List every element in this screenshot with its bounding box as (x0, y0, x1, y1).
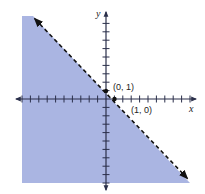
y-axis-label: y (95, 8, 101, 19)
point-0-1 (104, 89, 108, 93)
x-axis-label: x (188, 103, 194, 114)
point-1-0-label: (1, 0) (131, 105, 152, 115)
point-1-0 (112, 97, 116, 101)
inequality-graph: (0, 1) (1, 0) x y (0, 0, 205, 194)
point-0-1-label: (0, 1) (113, 82, 134, 92)
